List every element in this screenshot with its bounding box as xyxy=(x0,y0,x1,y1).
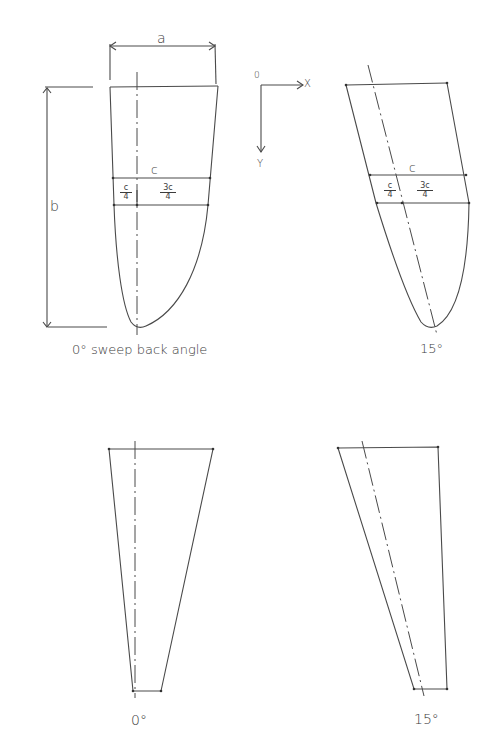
label-c-over-4: c4 xyxy=(383,182,397,199)
caption-0deg-tapered: 0° xyxy=(131,712,147,728)
axis-y-label: Y xyxy=(257,158,263,169)
quarter-chord-axis xyxy=(368,65,437,335)
caption-15deg-tapered: 15° xyxy=(414,711,439,727)
label-chord-c: c xyxy=(409,161,416,175)
tapered-planform-15deg xyxy=(337,441,449,696)
caption-0deg-sweep: 0° sweep back angle xyxy=(72,342,207,357)
label-a: a xyxy=(157,30,166,46)
elliptic-outline xyxy=(110,86,218,327)
label-b: b xyxy=(50,198,59,214)
caption-15deg-elliptic: 15° xyxy=(420,341,443,356)
label-chord-c: c xyxy=(151,163,158,177)
coordinate-axes xyxy=(257,81,303,152)
diagram-canvas xyxy=(0,0,495,754)
label-3c-over-4: 3c4 xyxy=(416,182,434,199)
label-3c-over-4: 3c4 xyxy=(159,184,177,201)
axis-origin-label: 0 xyxy=(254,70,260,80)
elliptic-planform-15deg xyxy=(345,65,471,335)
axis-x-label: X xyxy=(304,78,311,89)
label-c-over-4: c4 xyxy=(119,184,133,201)
tapered-planform-0deg xyxy=(108,441,215,698)
root-chord-line xyxy=(110,86,218,87)
quarter-chord-axis xyxy=(362,441,424,696)
